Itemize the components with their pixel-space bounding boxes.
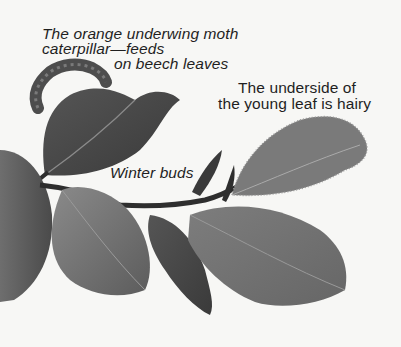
hairy-leaf-label-line1: The underside of [238, 80, 356, 95]
hairy-young-leaf [232, 117, 367, 196]
middle-left-leaf [52, 187, 150, 295]
winter-buds-label: Winter buds [110, 165, 194, 180]
caterpillar-label-line2: caterpillar—feeds [42, 41, 164, 56]
hairy-leaf-label-line2: the young leaf is hairy [218, 96, 371, 111]
winter-buds [192, 150, 235, 202]
large-lower-leaf [188, 207, 346, 306]
caterpillar-label-line3: on beech leaves [114, 56, 228, 71]
caterpillar-label-line1: The orange underwing moth [42, 26, 238, 41]
